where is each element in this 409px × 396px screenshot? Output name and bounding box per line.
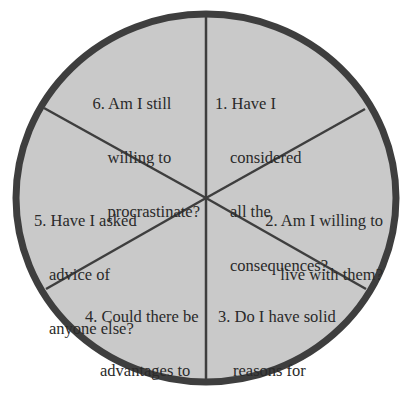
q1-line-2: considered	[215, 149, 328, 167]
q4-line-2: advantages to	[85, 362, 199, 380]
q3-line-2: reasons for	[218, 362, 336, 380]
q2-line-1: 2. Am I willing to	[265, 212, 383, 230]
q6-line-1: 6. Am I still	[92, 95, 200, 113]
q3-line-1: 3. Do I have solid	[218, 308, 336, 326]
q4-line-1: 4. Could there be	[85, 308, 199, 326]
question-3: 3. Do I have solid reasons for postponin…	[218, 272, 336, 396]
question-4: 4. Could there be advantages to waiting?	[85, 272, 199, 396]
q1-line-1: 1. Have I	[215, 95, 328, 113]
q5-line-1: 5. Have I asked	[34, 212, 137, 230]
q6-line-2: willing to	[92, 149, 200, 167]
